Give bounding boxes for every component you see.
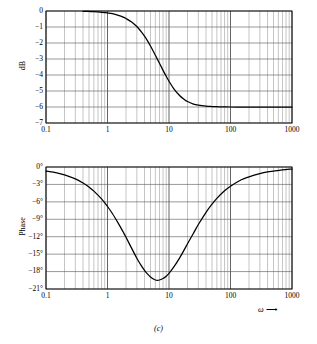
x-tick-label-phase: 1 [88,292,128,300]
y-tick-label-phase: −15° [0,250,43,258]
x-tick-label-phase: 100 [211,292,251,300]
x-axis-title: ω⟶ [258,305,277,314]
y-tick-label-phase: −3° [0,180,43,188]
omega-arrow-icon: ⟶ [266,305,277,314]
y-tick-label-magnitude: 0 [0,7,43,15]
x-tick-label-phase: 1000 [272,292,312,300]
axis-title-phase: Phase [18,207,27,247]
x-tick-label-magnitude: 0.1 [26,126,66,134]
panel-phase [46,167,292,289]
x-tick-label-magnitude: 1000 [272,126,312,134]
y-tick-label-phase: −6° [0,198,43,206]
x-tick-label-phase: 10 [149,292,189,300]
minor-gridlines-x-phase [65,167,290,289]
omega-symbol: ω [258,305,264,314]
x-tick-label-magnitude: 100 [211,126,251,134]
x-tick-label-phase: 0.1 [26,292,66,300]
y-tick-label-magnitude: −1 [0,23,43,31]
axis-title-magnitude: dB [18,46,27,86]
minor-gridlines-x-magnitude [65,11,290,123]
x-tick-label-magnitude: 10 [149,126,189,134]
bode-plot-figure: 0−1−2−3−4−5−6−70.11101001000dB0°−3°−6°−9… [0,0,317,344]
y-tick-label-phase: 0° [0,163,43,171]
figure-caption: (c) [0,324,317,333]
y-tick-label-magnitude: −5 [0,87,43,95]
panel-magnitude [46,11,292,123]
y-tick-label-magnitude: −6 [0,103,43,111]
y-tick-label-phase: −18° [0,267,43,275]
x-tick-label-magnitude: 1 [88,126,128,134]
